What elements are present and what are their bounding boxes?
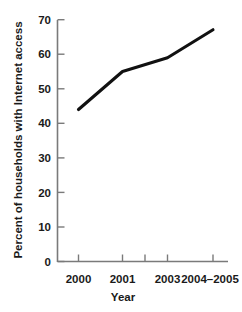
y-tick-label-20: 20 bbox=[38, 187, 51, 199]
y-tick-label-60: 60 bbox=[38, 48, 51, 60]
y-tick-label-10: 10 bbox=[38, 221, 51, 233]
chart-canvas: 0 10 20 30 40 50 60 70 2000 2001 2003 20… bbox=[0, 0, 242, 312]
y-tick-label-0: 0 bbox=[45, 256, 51, 268]
y-tick-label-70: 70 bbox=[38, 14, 51, 26]
x-tick-label-2003: 2003 bbox=[155, 273, 181, 285]
y-tick-label-40: 40 bbox=[38, 117, 51, 129]
chart-background bbox=[0, 0, 242, 312]
y-tick-label-50: 50 bbox=[38, 83, 51, 95]
y-axis-title: Percent of households with Internet acce… bbox=[12, 21, 24, 258]
line-chart: 0 10 20 30 40 50 60 70 2000 2001 2003 20… bbox=[0, 0, 242, 312]
x-tick-label-2000: 2000 bbox=[66, 273, 92, 285]
x-axis-title: Year bbox=[111, 291, 136, 303]
y-tick-label-30: 30 bbox=[38, 152, 51, 164]
x-tick-label-2004-2005: 2004–2005 bbox=[181, 273, 239, 285]
x-tick-label-2001: 2001 bbox=[110, 273, 136, 285]
